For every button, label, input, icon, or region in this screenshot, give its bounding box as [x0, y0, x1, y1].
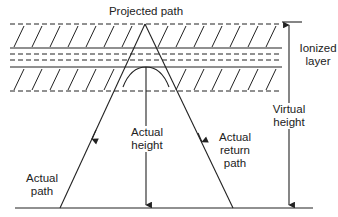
lower-hatching [14, 69, 276, 90]
projected-path-up [60, 24, 145, 208]
virtual-height-label: Virtual height [264, 103, 314, 129]
actual-height-label: Actual height [124, 126, 170, 152]
actual-path-arrow-icon [92, 130, 96, 139]
actual-path-label: Actual path [22, 172, 62, 198]
ionized-layer-label: Ionized layer [298, 42, 338, 68]
actual-return-path-label: Actual return path [212, 131, 258, 170]
projected-path-label: Projected path [104, 5, 188, 18]
projected-path-down [145, 24, 233, 208]
upper-hatching [14, 26, 276, 47]
return-path-arrow-icon [198, 133, 202, 142]
